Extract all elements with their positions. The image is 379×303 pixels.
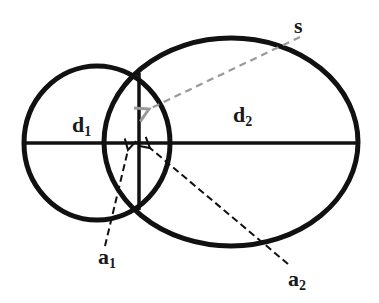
diagram-canvas: s d1 d2 a1 a2 xyxy=(0,0,379,303)
ellipse-diagram: s d1 d2 a1 a2 xyxy=(0,0,379,303)
label-d1: d1 xyxy=(72,112,91,139)
label-d2: d2 xyxy=(233,102,252,129)
label-s: s xyxy=(294,13,303,38)
label-a2: a2 xyxy=(288,266,306,293)
label-a1: a1 xyxy=(98,244,116,271)
